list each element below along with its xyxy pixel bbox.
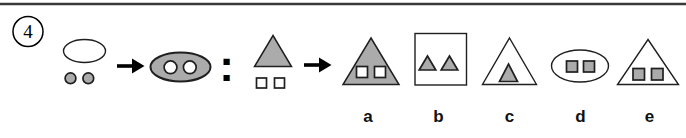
option-a-group[interactable]: a [343,38,399,126]
white-square-left [257,78,267,88]
gray-square-right [652,69,664,81]
premise-right-group [151,53,211,82]
gray-dot-right [83,73,94,84]
option-b-group[interactable]: b [415,34,467,127]
white-dot-right [183,61,196,74]
figure-canvas: 4 : [0,0,686,138]
arrow-head [319,58,332,73]
arrow-right-icon [304,58,332,73]
colon-separator: : [219,41,234,90]
white-square-left [357,67,368,78]
triangle-outline-shape [618,40,679,85]
ellipse-outline-shape [552,50,609,82]
square-outline-shape [415,34,467,86]
gray-triangle-shape [255,36,292,67]
option-a-label[interactable]: a [363,107,373,126]
gray-square-right [584,61,595,72]
option-e-group[interactable]: e [618,40,679,127]
white-square-right [375,67,386,78]
option-c-label[interactable]: c [505,107,514,126]
option-b-label[interactable]: b [433,107,443,126]
gray-dot-left [65,73,76,84]
question-number-badge: 4 [13,17,43,47]
premise-left-group [64,40,106,84]
arrow-head [132,59,145,74]
ellipse-outline-shape [64,40,106,63]
option-d-label[interactable]: d [575,107,585,126]
option-c-group[interactable]: c [483,38,537,126]
stem-group [255,36,292,89]
gray-ellipse-shape [151,53,211,82]
option-d-group[interactable]: d [552,50,609,126]
question-number: 4 [23,21,33,42]
gray-triangle-shape [343,38,399,85]
puzzle-figure: 4 : [0,0,686,138]
white-square-right [275,78,285,88]
gray-square-left [567,61,578,72]
white-dot-left [164,61,177,74]
option-e-label[interactable]: e [645,107,654,126]
arrow-right-icon [117,59,145,74]
gray-square-left [633,69,645,81]
